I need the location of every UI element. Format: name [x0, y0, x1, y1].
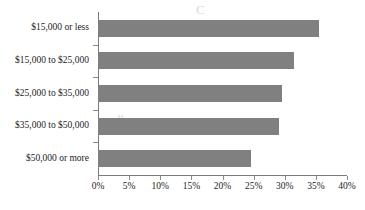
- y-axis-label: $15,000 to $25,000: [15, 56, 89, 66]
- x-axis-tick-label: 25%: [245, 182, 262, 192]
- x-axis-tick-label: 10%: [152, 182, 169, 192]
- bar: [98, 52, 294, 69]
- x-axis-tick-label: 15%: [183, 182, 200, 192]
- x-axis-tick: [347, 176, 348, 180]
- x-axis-tick: [129, 176, 130, 180]
- x-axis-tick: [285, 176, 286, 180]
- x-axis-tick-label: 20%: [214, 182, 231, 192]
- x-axis-tick: [316, 176, 317, 180]
- x-axis-tick: [160, 176, 161, 180]
- bar: [98, 150, 251, 167]
- y-axis-label: $50,000 or more: [26, 154, 89, 164]
- x-axis-tick-label: 30%: [276, 182, 293, 192]
- y-axis-label: $25,000 to $35,000: [15, 89, 89, 99]
- y-axis-tick: [93, 142, 98, 143]
- x-axis-tick-label: 0%: [92, 182, 105, 192]
- y-axis-label: $35,000 to $50,000: [15, 121, 89, 131]
- bar: [98, 85, 282, 102]
- x-axis-tick: [254, 176, 255, 180]
- bar: [98, 118, 279, 135]
- y-axis-label: $15,000 or less: [31, 23, 89, 33]
- y-axis-tick: [93, 45, 98, 46]
- bar: [98, 20, 319, 37]
- x-axis-tick-label: 40%: [338, 182, 355, 192]
- y-axis-tick: [93, 110, 98, 111]
- y-axis-tick: [93, 77, 98, 78]
- ghost-text-line-1: C: [196, 2, 206, 18]
- x-axis-tick: [98, 176, 99, 180]
- x-axis-tick: [191, 176, 192, 180]
- x-axis-tick-label: 35%: [307, 182, 324, 192]
- bar-chart: C DELLL ew A Count u , $15,000 or less$1…: [0, 0, 365, 210]
- x-axis-tick: [223, 176, 224, 180]
- x-axis-tick-label: 5%: [123, 182, 136, 192]
